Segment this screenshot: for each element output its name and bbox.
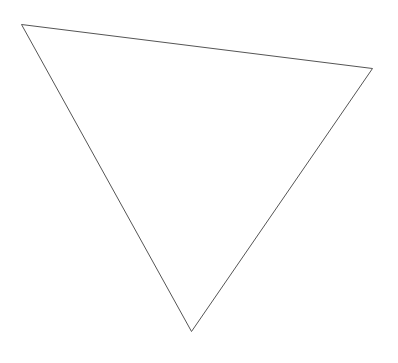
diagram-canvas [0, 0, 398, 363]
triangle-shape [22, 25, 373, 332]
